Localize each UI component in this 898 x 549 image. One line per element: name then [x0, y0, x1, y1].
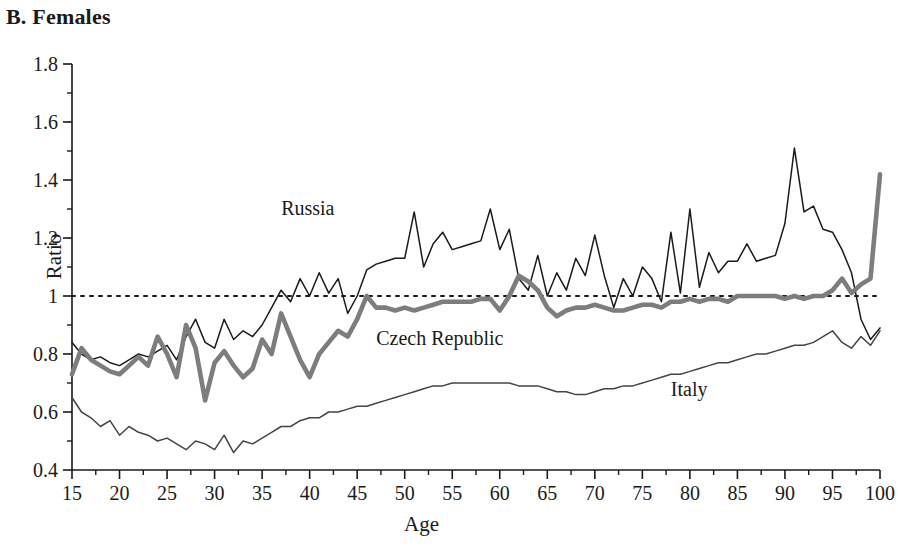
- svg-text:55: 55: [442, 482, 462, 504]
- svg-text:1.2: 1.2: [33, 227, 58, 249]
- svg-text:Russia: Russia: [281, 197, 334, 219]
- svg-text:90: 90: [775, 482, 795, 504]
- svg-text:20: 20: [110, 482, 130, 504]
- svg-text:65: 65: [537, 482, 557, 504]
- svg-text:1: 1: [48, 285, 58, 307]
- y-axis-ticks: 1.81.61.41.210.80.60.4: [33, 53, 72, 481]
- svg-text:30: 30: [205, 482, 225, 504]
- svg-text:45: 45: [347, 482, 367, 504]
- svg-text:85: 85: [727, 482, 747, 504]
- svg-text:Italy: Italy: [671, 378, 708, 401]
- svg-text:25: 25: [157, 482, 177, 504]
- svg-text:0.4: 0.4: [33, 459, 58, 481]
- svg-text:70: 70: [585, 482, 605, 504]
- svg-text:35: 35: [252, 482, 272, 504]
- chart-panel: B. Females Ratio Age 1.81.61.41.210.80.6…: [0, 0, 898, 549]
- svg-text:50: 50: [395, 482, 415, 504]
- svg-text:40: 40: [300, 482, 320, 504]
- data-series-group: [72, 148, 880, 453]
- svg-text:75: 75: [632, 482, 652, 504]
- x-axis-ticks: 1520253035404550556065707580859095100: [62, 470, 895, 504]
- chart-plot: 1.81.61.41.210.80.60.4 15202530354045505…: [0, 0, 898, 549]
- svg-text:80: 80: [680, 482, 700, 504]
- svg-text:95: 95: [822, 482, 842, 504]
- svg-text:1.4: 1.4: [33, 169, 58, 191]
- svg-text:0.8: 0.8: [33, 343, 58, 365]
- svg-text:60: 60: [490, 482, 510, 504]
- svg-text:100: 100: [865, 482, 895, 504]
- svg-text:1.6: 1.6: [33, 111, 58, 133]
- svg-text:1.8: 1.8: [33, 53, 58, 75]
- svg-text:15: 15: [62, 482, 82, 504]
- svg-text:Czech Republic: Czech Republic: [376, 327, 503, 350]
- svg-text:0.6: 0.6: [33, 401, 58, 423]
